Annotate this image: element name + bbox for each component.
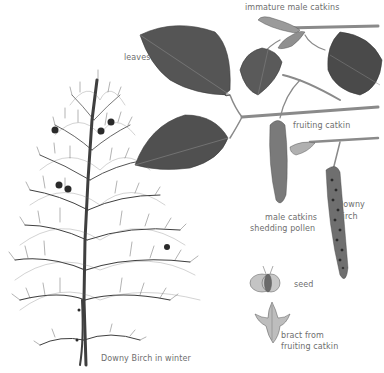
seed-detail <box>250 266 280 292</box>
male-catkin-pollen <box>270 121 288 204</box>
label-seed: seed <box>294 280 314 290</box>
label-downy-birch-2: Birch <box>337 212 358 222</box>
immature-male-catkin-2 <box>278 31 305 48</box>
botanical-illustration: immature male catkins leaves fruiting ca… <box>0 0 384 373</box>
label-leaves: leaves <box>124 53 150 63</box>
label-downy-birch-1: Downy <box>337 200 365 210</box>
label-male-catkins-2: shedding pollen <box>250 224 315 234</box>
birch-leaves <box>135 26 382 170</box>
leaf-upper-left <box>140 26 230 96</box>
label-bract-1: bract from <box>281 331 324 341</box>
label-bract-2: fruiting catkin <box>281 342 338 352</box>
illustration-art <box>0 0 384 373</box>
label-fruiting-catkin: fruiting catkin <box>293 121 350 131</box>
fruiting-catkin-long <box>326 166 348 278</box>
leaf-right <box>328 32 382 95</box>
label-immature-male-catkins: immature male catkins <box>245 3 340 13</box>
leaf-middle <box>240 48 282 95</box>
label-tree-caption: Downy Birch in winter <box>101 354 191 364</box>
fruiting-catkin-bract <box>290 142 315 155</box>
label-male-catkins-1: male catkins <box>265 213 317 223</box>
winter-tree-drawing <box>9 70 200 365</box>
immature-male-catkin-1 <box>258 17 300 33</box>
